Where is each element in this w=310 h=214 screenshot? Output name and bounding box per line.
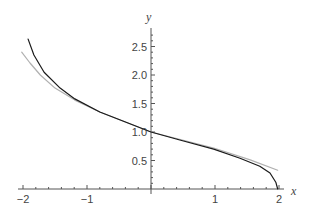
y-axis-label: y bbox=[145, 10, 152, 24]
x-tick-label: −1 bbox=[81, 193, 94, 205]
y-tick-label: 2.5 bbox=[132, 41, 147, 53]
x-tick-label: 2 bbox=[276, 193, 282, 205]
x-tick-label: 1 bbox=[212, 193, 218, 205]
y-tick-label: 0.5 bbox=[132, 155, 147, 167]
series-approximation bbox=[22, 52, 278, 170]
y-axis: 0.51.01.52.02.5 bbox=[132, 28, 155, 194]
x-axis-label: x bbox=[290, 184, 297, 198]
chart: −2−112 0.51.01.52.02.5 x y bbox=[0, 0, 310, 214]
y-tick-label: 2.0 bbox=[132, 69, 147, 81]
x-tick-label: −2 bbox=[17, 193, 30, 205]
plot-area bbox=[22, 39, 278, 189]
x-axis: −2−112 bbox=[17, 185, 284, 205]
y-tick-label: 1.5 bbox=[132, 98, 147, 110]
